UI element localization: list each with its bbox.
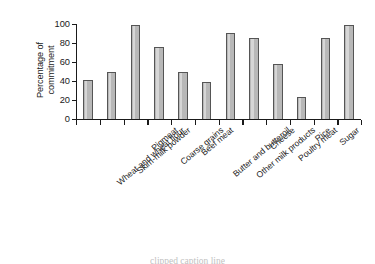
figure-bar-chart-percentage-of-commitment: Percentage of commitment 020406080100 Wh… <box>0 0 375 264</box>
bar <box>154 47 164 119</box>
x-axis-category-label: Skim-milk powder <box>134 125 192 176</box>
figure-caption-clipped: clipped caption line <box>0 256 375 264</box>
y-axis-tick-label: 40 <box>60 76 70 86</box>
x-axis-tick <box>171 120 172 125</box>
x-axis-tick <box>337 120 338 125</box>
x-axis-category-label: Wheat and wheat flour <box>115 125 187 187</box>
x-axis-category-label: Beef meat <box>199 125 235 158</box>
bar <box>107 72 117 120</box>
x-axis-tick <box>266 120 267 125</box>
y-axis-tick <box>72 24 77 25</box>
x-axis-category-label: Butter and butteroil <box>230 125 291 179</box>
x-axis-category-label: Pigmeat <box>150 125 180 153</box>
x-axis-tick <box>124 120 125 125</box>
y-axis-tick <box>72 81 77 82</box>
bar <box>249 38 259 119</box>
x-axis-category-label: Cheese <box>268 125 297 152</box>
bar <box>297 97 307 119</box>
figure-caption-text: clipped caption line <box>0 256 375 264</box>
x-axis-tick <box>314 120 315 125</box>
x-axis-tick <box>242 120 243 125</box>
bar <box>178 72 188 119</box>
bar <box>226 33 236 119</box>
y-axis-tick-label: 0 <box>65 114 70 124</box>
x-axis-category-label: Coarse grains <box>178 125 225 167</box>
y-axis-tick <box>72 100 77 101</box>
y-axis-tick <box>72 62 77 63</box>
x-axis-category-label: Poultry meat <box>296 125 339 163</box>
y-axis-title-line-1: Percentage of <box>35 42 45 98</box>
y-axis-tick-label: 20 <box>60 95 70 105</box>
x-axis-category-label: Rice <box>313 125 332 144</box>
x-axis-tick <box>100 120 101 125</box>
y-axis-tick-label: 100 <box>54 19 70 29</box>
x-axis-category-label: Sugar <box>338 125 362 147</box>
x-axis-tick <box>361 120 362 125</box>
y-axis-tick <box>72 43 77 44</box>
bar <box>83 80 93 119</box>
y-axis-tick-label: 80 <box>60 38 70 48</box>
bar <box>273 64 283 119</box>
x-axis-tick <box>290 120 291 125</box>
plot-area: 020406080100 <box>76 24 361 119</box>
bar <box>321 38 331 119</box>
y-axis-line <box>76 24 77 119</box>
x-axis-tick <box>195 120 196 125</box>
x-axis-tick <box>219 120 220 125</box>
y-axis-tick-label: 60 <box>60 57 70 67</box>
bar <box>202 82 212 119</box>
bar <box>344 25 354 119</box>
y-axis-title-line-2: commitment <box>46 46 56 95</box>
x-axis-category-label: Other milk products <box>255 125 318 180</box>
bar <box>131 25 141 119</box>
x-axis-tick <box>147 120 148 125</box>
x-axis-tick <box>76 120 77 125</box>
